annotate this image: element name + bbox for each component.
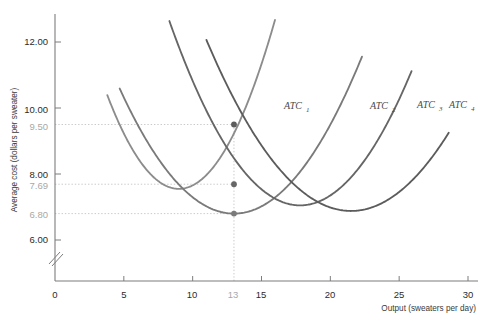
- y-tick-label-12: 12.00: [24, 36, 48, 47]
- atc-4-curve: [206, 40, 448, 211]
- y-axis-title: Average cost (dollars per sweater): [10, 87, 19, 212]
- curve-label-atc-3: ATC 3: [416, 99, 443, 113]
- y-axis-ticks: [55, 42, 61, 240]
- x-tick-label-5: 5: [121, 289, 126, 300]
- x-axis-title: Output (sweaters per day): [381, 304, 476, 313]
- curve-label-atc-1: ATC 1: [283, 100, 310, 114]
- x-tick-label-25: 25: [394, 289, 405, 300]
- curve-label-atc-2: ATC 2: [369, 100, 396, 114]
- atc-2-subscript: 2: [392, 106, 396, 114]
- marker-atc4-at-13: [231, 122, 237, 128]
- y-axis-break-icon: [49, 252, 63, 266]
- x-axis-ticks: [124, 276, 468, 281]
- atc-2-curve: [120, 57, 362, 214]
- atc-curves-chart: 12.00 10.00 9.50 8.00 7.69 6.80 6.00 0 5…: [0, 0, 483, 314]
- y-tick-label-8: 8.00: [30, 169, 49, 180]
- x-tick-label-0: 0: [52, 289, 57, 300]
- x-tick-label-10: 10: [187, 289, 198, 300]
- atc-1-subscript: 1: [306, 106, 310, 114]
- marker-atc2-at-13: [231, 211, 237, 217]
- y-tick-label-6-80: 6.80: [30, 209, 49, 220]
- chart-canvas: 12.00 10.00 9.50 8.00 7.69 6.80 6.00 0 5…: [0, 0, 483, 314]
- y-tick-label-7-69: 7.69: [30, 180, 49, 191]
- marker-atc3-at-13: [231, 181, 237, 187]
- x-tick-label-30: 30: [463, 289, 474, 300]
- atc-1-curve: [107, 20, 275, 189]
- atc-3-label: ATC: [416, 99, 435, 110]
- atc-3-subscript: 3: [438, 105, 443, 113]
- x-tick-label-15: 15: [256, 289, 267, 300]
- atc-3-curve: [169, 21, 411, 205]
- y-tick-label-9-50: 9.50: [30, 121, 49, 132]
- x-tick-label-20: 20: [325, 289, 336, 300]
- y-tick-label-10: 10.00: [24, 104, 48, 115]
- curve-label-atc-4: ATC 4: [448, 99, 475, 113]
- atc-2-label: ATC: [369, 100, 388, 111]
- guide-lines: [55, 125, 234, 282]
- y-tick-label-6: 6.00: [30, 234, 49, 245]
- x-tick-label-13: 13: [228, 289, 239, 300]
- atc-1-label: ATC: [283, 100, 302, 111]
- atc-4-subscript: 4: [471, 105, 475, 113]
- atc-4-label: ATC: [448, 99, 467, 110]
